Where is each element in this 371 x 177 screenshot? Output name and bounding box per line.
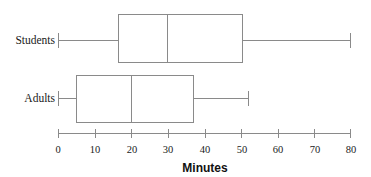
box-plot-canvas: Students Adults	[0, 0, 371, 177]
x-axis-title: Minutes	[182, 161, 228, 175]
x-axis-tick-label-60: 60	[273, 144, 284, 155]
boxplot-series-adults: Adults	[24, 76, 249, 123]
x-axis-tick-label-20: 20	[127, 144, 138, 155]
x-axis-tick-label-80: 80	[346, 144, 357, 155]
box-plot-figure: Students Adults	[0, 0, 371, 177]
adults-box	[77, 76, 194, 123]
x-axis-tick-label-30: 30	[163, 144, 174, 155]
x-axis-tick-label-0: 0	[55, 144, 60, 155]
x-axis-tick-label-70: 70	[310, 144, 321, 155]
x-axis-tick-label-40: 40	[200, 144, 211, 155]
x-axis-tick-label-50: 50	[237, 144, 248, 155]
boxplot-series-students: Students	[15, 15, 351, 63]
category-label-adults: Adults	[24, 92, 55, 104]
x-axis: 0 10 20 30 40 50 60 70 80 Minutes	[55, 129, 356, 175]
category-label-students: Students	[15, 34, 55, 46]
students-box	[119, 15, 243, 63]
x-axis-tick-label-10: 10	[90, 144, 101, 155]
